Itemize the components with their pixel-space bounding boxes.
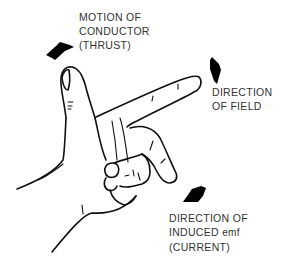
current-label-line2-main: INDUCED [169,226,222,238]
forefinger-crease-1 [152,96,153,101]
current-arrow [183,186,206,202]
wrist-crease [82,205,83,214]
middle-finger [130,126,177,183]
knuckle-lines [125,170,140,180]
current-label-line2: INDUCED emf [169,225,248,240]
curled-finger-1 [105,163,119,177]
fingers-bottom [110,190,136,205]
palm-left-edge [95,118,106,160]
current-label: DIRECTION OF INDUCED emf (CURRENT) [169,211,248,254]
thumbnail [62,70,70,90]
forefinger-base-lines [112,118,128,162]
current-label-line3: (CURRENT) [169,240,248,254]
right-hand-rule-diagram: MOTION OF CONDUCTOR (THRUST) DIRECTION O… [0,0,284,270]
thrust-label: MOTION OF CONDUCTOR (THRUST) [79,10,150,52]
current-label-line1: DIRECTION OF [169,211,248,225]
thrust-label-line3: (THRUST) [79,38,150,52]
thrust-arrow [46,42,74,60]
thumb-outline [61,67,95,118]
field-arrow [210,57,221,84]
field-label-line1: DIRECTION [212,85,272,99]
field-label: DIRECTION OF FIELD [212,85,272,113]
thrust-label-line2: CONDUCTOR [79,24,150,38]
field-label-line2: OF FIELD [212,99,272,113]
current-label-emf: emf [222,227,240,238]
curled-finger-2 [104,178,117,191]
thumb-knuckle-lines [68,102,73,109]
forefinger-top [96,76,201,127]
thrust-label-line1: MOTION OF [79,10,150,24]
